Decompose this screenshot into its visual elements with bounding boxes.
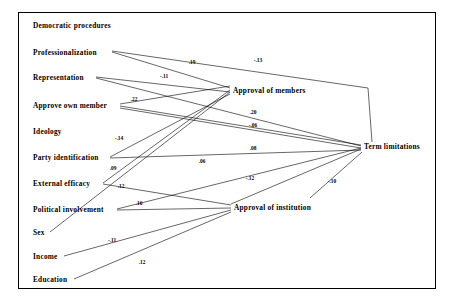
- node-professionalization: Professionalization: [33, 48, 97, 57]
- node-education: Education: [33, 275, 67, 284]
- node-sex: Sex: [33, 228, 45, 237]
- node-representation: Representation: [33, 73, 84, 82]
- path-diagram-figure: Democratic procedures Professionalizatio…: [0, 0, 452, 301]
- coefficient-party-identification-approval-members: -.14: [115, 135, 124, 141]
- node-external-efficacy: External efficacy: [33, 179, 90, 188]
- coefficient-party-identification-term-limitations: .08: [250, 145, 257, 151]
- coefficient-external-efficacy-approval-members: .09: [110, 165, 117, 171]
- node-ideology: Ideology: [33, 127, 62, 136]
- coefficient-approve-own-member-term-limitations: .20: [250, 109, 257, 115]
- node-term-limitations: Term limitations: [364, 142, 420, 151]
- coefficient-term-limitations-approval-institution: -.10: [328, 178, 337, 184]
- coefficient-political-involvement-approval-institution: .16: [136, 200, 143, 206]
- coefficient-income-approval-institution: .12: [139, 259, 146, 265]
- coefficient-approve-own-member-approval-members: .22: [131, 96, 138, 102]
- coefficient-professionalization-approval-members: .19: [189, 59, 196, 65]
- coefficient-approval-institution-term-limitations: -.12: [246, 175, 255, 181]
- coefficient-representation-approval-members: -.11: [160, 73, 168, 79]
- node-approval-of-institution: Approval of institution: [234, 203, 311, 212]
- coefficient-sex-term-limitations: -.11: [108, 237, 116, 243]
- node-approval-of-members: Approval of members: [233, 86, 306, 95]
- coefficient-professionalization-term-limitations: -.13: [254, 57, 263, 63]
- node-political-involvement: Political involvement: [33, 205, 104, 214]
- node-income: Income: [33, 252, 58, 261]
- coefficient-external-efficacy-approval-institution: .12: [118, 183, 125, 189]
- node-democratic-procedures: Democratic procedures: [33, 21, 111, 30]
- coefficient-ideology-term-limitations: -.06: [249, 122, 258, 128]
- node-party-identification: Party identification: [33, 153, 99, 162]
- coefficient-political-involvement-term-limitations: .06: [199, 158, 206, 164]
- node-approve-own-member: Approve own member: [33, 101, 107, 110]
